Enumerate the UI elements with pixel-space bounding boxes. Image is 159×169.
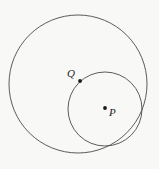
point-q-label: Q — [67, 68, 75, 79]
point-p-label: P — [109, 107, 116, 118]
point-q-dot — [78, 79, 82, 83]
point-p-dot — [103, 106, 107, 110]
geometry-canvas — [0, 0, 159, 169]
geometry-diagram: Q P — [0, 0, 159, 169]
